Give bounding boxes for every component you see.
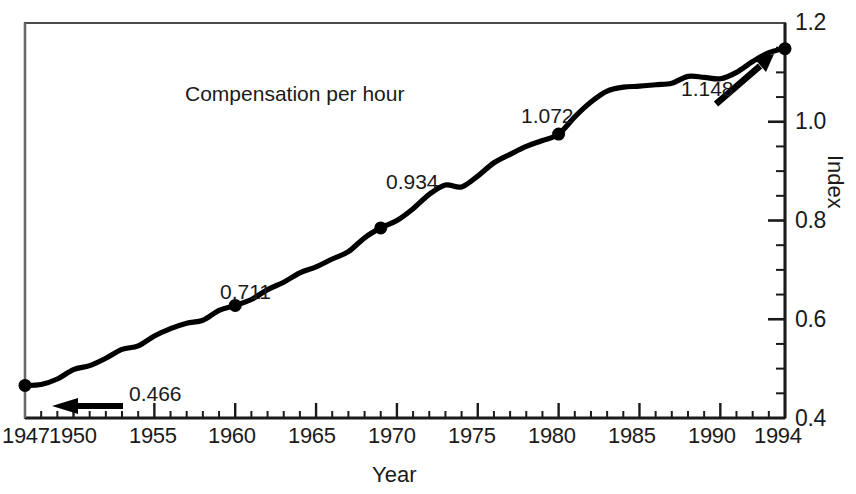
- x-axis-title: Year: [372, 464, 416, 486]
- marker-dot-1148: [779, 42, 792, 55]
- x-tick-label-1947: 1947: [2, 425, 50, 447]
- y-major-ticks: [768, 122, 785, 320]
- x-tick-label-1975: 1975: [448, 425, 496, 447]
- point-label-0934: 0.934: [386, 171, 439, 192]
- point-label-0466: 0.466: [129, 383, 182, 404]
- x-tick-label-1985: 1985: [608, 425, 656, 447]
- y-tick-label-04: 0.4: [795, 407, 826, 430]
- chart-figure: Compensation per hour 0.466 0.711 0.934 …: [0, 0, 856, 494]
- series-line-compensation-per-hour: [25, 49, 785, 386]
- marker-dot-0466: [19, 379, 32, 392]
- x-tick-label-1955: 1955: [129, 425, 177, 447]
- y-tick-label-06: 0.6: [795, 308, 826, 331]
- x-tick-label-1965: 1965: [288, 425, 336, 447]
- marker-dot-0934: [374, 221, 387, 234]
- x-tick-label-1970: 1970: [368, 425, 416, 447]
- y-axis-title: Index: [824, 155, 846, 209]
- series-label-compensation-per-hour: Compensation per hour: [185, 83, 404, 104]
- x-tick-label-1960: 1960: [208, 425, 256, 447]
- marker-dot-1072: [552, 128, 565, 141]
- y-tick-label-10: 1.0: [795, 110, 826, 133]
- x-tick-label-1990: 1990: [688, 425, 736, 447]
- y-tick-label-12: 1.2: [795, 11, 826, 34]
- chart-canvas: [0, 0, 856, 494]
- y-tick-label-08: 0.8: [795, 209, 826, 232]
- point-label-0711: 0.711: [220, 281, 271, 302]
- x-tick-label-1980: 1980: [528, 425, 576, 447]
- point-label-1072: 1.072: [521, 105, 574, 126]
- arrow-to-0466: [52, 398, 123, 414]
- x-tick-label-1950: 1950: [49, 425, 97, 447]
- point-label-1148: 1.148: [681, 78, 734, 99]
